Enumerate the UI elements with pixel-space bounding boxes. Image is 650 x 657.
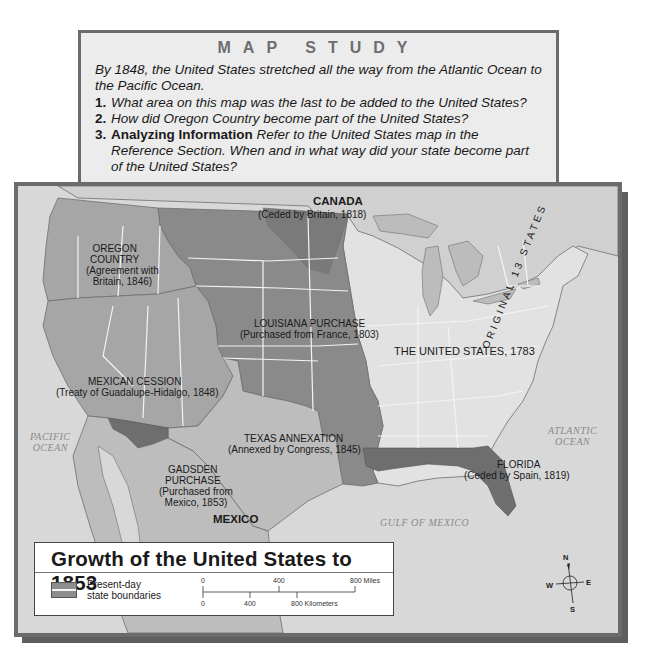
- label-texas-note: (Annexed by Congress, 1845): [228, 444, 361, 455]
- label-florida-name: FLORIDA: [497, 459, 540, 470]
- compass-n: N: [563, 553, 568, 562]
- question-text: How did Oregon Country become part of th…: [111, 111, 468, 127]
- map-study-questions: 1. What area on this map was the last to…: [95, 95, 542, 175]
- label-louisiana-name: LOUISIANA PURCHASE: [254, 318, 365, 329]
- label-ceded-britain: (Ceded by Britain, 1818): [258, 209, 366, 220]
- legend-body: Present-day state boundaries 0 400 800 M…: [35, 573, 393, 615]
- question-number: 1.: [95, 95, 111, 111]
- map-legend: Growth of the United States to 1853 Pres…: [34, 542, 394, 616]
- scale-miles-400: 400: [273, 577, 285, 584]
- scale-km-800: 800 Kilometers: [291, 600, 338, 607]
- map-study-title: MAP STUDY: [95, 39, 542, 57]
- label-oregon-note: (Agreement with Britain, 1846): [86, 265, 159, 287]
- compass-s: S: [570, 605, 575, 614]
- scale-km-0: 0: [201, 600, 205, 607]
- label-louisiana-note: (Purchased from France, 1803): [240, 329, 379, 340]
- compass-w: W: [546, 581, 553, 590]
- question-number: 3.: [95, 127, 111, 175]
- label-oregon-name: OREGON COUNTRY: [90, 243, 139, 265]
- label-atlantic-ocean: ATLANTIC OCEAN: [548, 425, 597, 447]
- label-gadsden-name: GADSDEN PURCHASE: [165, 464, 221, 486]
- label-us-1783: THE UNITED STATES, 1783: [394, 346, 535, 357]
- label-florida-note: (Ceded by Spain, 1819): [464, 470, 570, 481]
- label-texas-name: TEXAS ANNEXATION: [244, 433, 343, 444]
- label-mexican-name: MEXICAN CESSION: [88, 376, 181, 387]
- scale-km-400: 400: [244, 600, 256, 607]
- frame-shadow-bottom: [22, 637, 628, 643]
- question-lead: Analyzing Information: [111, 127, 253, 142]
- label-canada: CANADA: [313, 196, 363, 207]
- map-study-box: MAP STUDY By 1848, the United States str…: [78, 30, 559, 182]
- scale-bar: 0 400 800 Miles 0 400 800 Kilometers: [195, 573, 385, 615]
- label-pacific-ocean: PACIFIC OCEAN: [30, 431, 71, 453]
- label-gulf-of-mexico: GULF OF MEXICO: [380, 517, 469, 528]
- question-number: 2.: [95, 111, 111, 127]
- state-boundary-swatch: [51, 582, 77, 598]
- question-item: 2. How did Oregon Country become part of…: [95, 111, 542, 127]
- swatch-label: Present-day state boundaries: [87, 579, 161, 601]
- question-item: 1. What area on this map was the last to…: [95, 95, 542, 111]
- map-title: Growth of the United States to 1853: [35, 543, 393, 573]
- question-item: 3. Analyzing Information Refer to the Un…: [95, 127, 542, 175]
- question-text: What area on this map was the last to be…: [111, 95, 527, 111]
- scale-miles-0: 0: [201, 577, 205, 584]
- label-mexico: MEXICO: [213, 514, 258, 525]
- frame-shadow-right: [622, 192, 628, 643]
- label-gadsden-note: (Purchased from Mexico, 1853): [159, 486, 233, 508]
- compass-rose: N S E W: [546, 553, 596, 613]
- label-mexican-note: (Treaty of Guadalupe-Hidalgo, 1848): [56, 387, 219, 398]
- map-study-intro: By 1848, the United States stretched all…: [95, 62, 542, 94]
- map-frame: CANADA (Ceded by Britain, 1818) OREGON C…: [14, 182, 622, 637]
- compass-e: E: [586, 578, 591, 587]
- scale-miles-800: 800 Miles: [350, 577, 380, 584]
